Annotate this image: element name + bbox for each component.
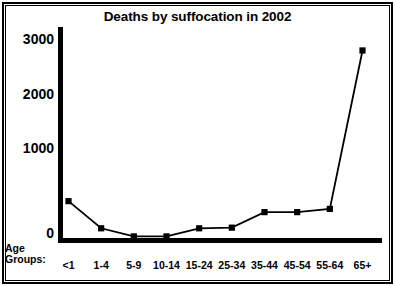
- data-point-45-54: [294, 209, 300, 215]
- data-point-65+: [359, 47, 365, 53]
- data-point-<1: [65, 198, 71, 204]
- data-point-35-44: [261, 209, 267, 215]
- data-point-10-14: [163, 233, 169, 239]
- data-point-1-4: [98, 225, 104, 231]
- chart-figure: Deaths by suffocation in 2002 Age Groups…: [0, 0, 395, 286]
- axis-lines: [58, 27, 382, 241]
- data-point-15-24: [196, 225, 202, 231]
- data-point-5-9: [131, 233, 137, 239]
- data-series-line: [69, 50, 363, 236]
- plot-area: [0, 0, 395, 286]
- data-point-55-64: [327, 206, 333, 212]
- data-point-25-34: [229, 225, 235, 231]
